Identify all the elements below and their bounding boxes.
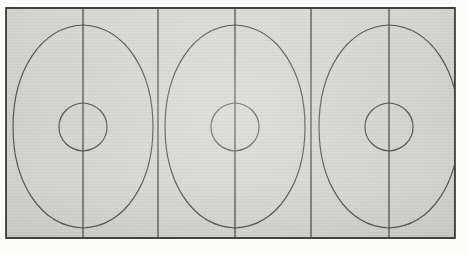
paper-field — [6, 8, 455, 238]
frame-mask-left — [0, 0, 6, 255]
caption — [0, 241, 468, 255]
geometric-drawing — [0, 0, 468, 255]
frame-mask-top — [0, 0, 468, 7]
drawing-page — [0, 0, 468, 255]
frame-mask-right — [455, 0, 468, 255]
